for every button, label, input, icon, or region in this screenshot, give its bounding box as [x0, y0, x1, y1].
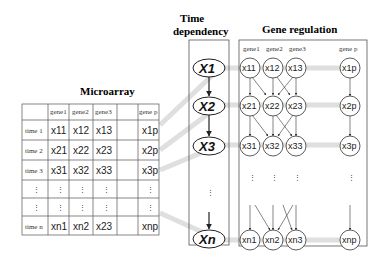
svg-text:xnp: xnp [142, 221, 159, 232]
connector-bands [160, 68, 360, 240]
time-node-1: X1 [198, 61, 215, 76]
time-ellipsis: ⋮ [207, 189, 214, 197]
svg-text:x33: x33 [288, 141, 303, 151]
svg-text:time n: time n [25, 223, 43, 231]
time-node-3: X3 [198, 139, 216, 154]
gene-ellipses: ⋮⋮⋮⋮ [249, 174, 355, 182]
svg-text:x3p: x3p [342, 141, 357, 151]
gene-headers: gene1 gene2 gene3 gene p [243, 45, 358, 53]
svg-text:x3p: x3p [142, 165, 159, 176]
table-row-labels: time 1 time 2 time 3 ⋮ ⋮ time n [25, 127, 43, 231]
svg-text:⋮: ⋮ [33, 204, 40, 212]
svg-text:⋮: ⋮ [294, 174, 301, 182]
svg-text:xn1: xn1 [51, 221, 68, 232]
time-node-2: X2 [198, 99, 216, 114]
diagram-canvas: Microarray gene1 gene2 gene3 gene p time… [0, 0, 385, 260]
svg-text:x1p: x1p [142, 125, 159, 136]
svg-text:x23: x23 [96, 221, 113, 232]
svg-text:gene1: gene1 [50, 108, 67, 116]
svg-text:gene2: gene2 [72, 108, 89, 116]
svg-text:x11: x11 [51, 125, 67, 136]
svg-text:gene3: gene3 [95, 108, 112, 116]
svg-text:time 1: time 1 [25, 127, 43, 135]
svg-text:time 2: time 2 [25, 147, 43, 155]
svg-text:xn3: xn3 [288, 235, 303, 245]
svg-text:⋮: ⋮ [147, 186, 154, 194]
svg-text:x33: x33 [96, 165, 113, 176]
table-headers: gene1 gene2 gene3 gene p [50, 108, 158, 116]
time-dependency-title-line2: dependency [173, 25, 229, 37]
svg-text:x2p: x2p [142, 145, 159, 156]
svg-text:x12: x12 [73, 125, 90, 136]
gene-regulation-title: Gene regulation [262, 23, 337, 35]
svg-text:gene2: gene2 [266, 45, 283, 53]
svg-text:⋮: ⋮ [249, 174, 256, 182]
svg-text:x21: x21 [242, 101, 257, 111]
svg-text:⋮: ⋮ [33, 186, 40, 194]
svg-text:x1p: x1p [342, 63, 357, 73]
svg-text:x31: x31 [242, 141, 257, 151]
svg-text:⋮: ⋮ [348, 174, 355, 182]
svg-text:⋮: ⋮ [57, 186, 64, 194]
svg-text:x32: x32 [73, 165, 90, 176]
svg-text:gene3: gene3 [289, 45, 306, 53]
svg-text:x22: x22 [73, 145, 90, 156]
svg-text:x2p: x2p [342, 101, 357, 111]
svg-text:⋮: ⋮ [103, 204, 110, 212]
svg-text:gene p: gene p [339, 45, 358, 53]
svg-text:⋮: ⋮ [79, 204, 86, 212]
svg-text:x13: x13 [288, 63, 303, 73]
svg-text:x11: x11 [242, 63, 256, 73]
svg-text:gene1: gene1 [243, 45, 260, 53]
svg-text:⋮: ⋮ [103, 186, 110, 194]
svg-text:x22: x22 [265, 101, 280, 111]
svg-text:x13: x13 [96, 125, 113, 136]
svg-text:xn2: xn2 [73, 221, 90, 232]
svg-text:⋮: ⋮ [271, 174, 278, 182]
svg-text:x23: x23 [288, 101, 303, 111]
svg-text:gene p: gene p [139, 108, 158, 116]
svg-text:xnp: xnp [342, 235, 357, 245]
svg-text:x12: x12 [265, 63, 280, 73]
time-dependency-title-line1: Time [180, 12, 204, 24]
svg-text:time 3: time 3 [25, 167, 43, 175]
svg-text:x21: x21 [51, 145, 68, 156]
svg-text:⋮: ⋮ [79, 186, 86, 194]
svg-text:⋮: ⋮ [147, 204, 154, 212]
svg-text:x32: x32 [265, 141, 280, 151]
svg-text:⋮: ⋮ [57, 204, 64, 212]
svg-text:x23: x23 [96, 145, 113, 156]
svg-text:xn1: xn1 [242, 235, 257, 245]
time-node-n: Xn [198, 232, 216, 247]
svg-text:x31: x31 [51, 165, 68, 176]
gene-nodes [240, 58, 360, 250]
svg-text:xn2: xn2 [265, 235, 280, 245]
microarray-title: Microarray [80, 85, 135, 97]
